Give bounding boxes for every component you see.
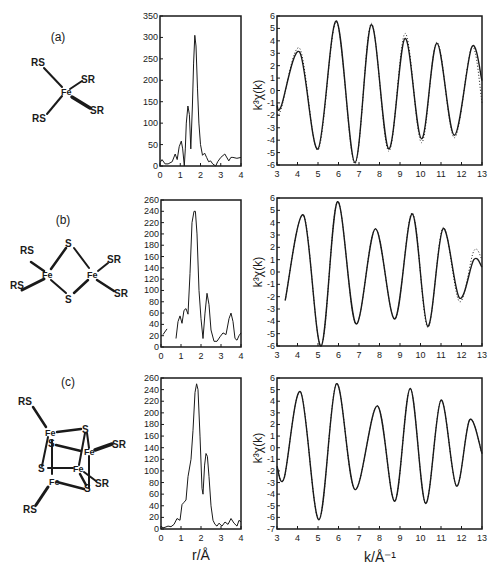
y-tick-label: 0 (270, 86, 275, 96)
y-tick-label: 5 (270, 385, 275, 395)
plot-frame (277, 16, 482, 165)
y-tick-label: -4 (267, 489, 275, 499)
x-tick-label: 0 (157, 170, 162, 180)
molecule-c-diagram (33, 407, 112, 505)
molecule-b-diagram (22, 248, 114, 293)
y-tick-label: 4 (270, 218, 275, 228)
y-tick-label: 0 (270, 267, 275, 277)
panel-label-a: (a) (51, 30, 66, 44)
y-tick-label: 0 (270, 443, 275, 453)
x-tick-label: 9 (397, 169, 402, 179)
y-tick-label: 3 (270, 230, 275, 240)
x-tick-label: 12 (456, 533, 466, 543)
exafs-plot-a: 345678910111213-6-5-4-3-2-10123456 (267, 11, 487, 179)
x-tick-label: 5 (315, 533, 320, 543)
y-tick-label: 250 (143, 54, 158, 64)
y-tick-label: 240 (144, 385, 159, 395)
rs-label: RS (20, 245, 34, 256)
y-tick-label: 3 (270, 408, 275, 418)
y-tick-label: 220 (144, 218, 159, 228)
x-tick-label: 13 (477, 350, 487, 360)
x-tick-label: 6 (336, 169, 341, 179)
svg-text:SR: SR (112, 439, 127, 450)
svg-text:RS: RS (23, 504, 37, 515)
data-curve (277, 21, 482, 163)
y-tick-label: -6 (267, 341, 275, 351)
panel-label-b: (b) (56, 213, 71, 227)
y-tick-label: 50 (148, 140, 158, 150)
y-tick-label: 120 (144, 274, 159, 284)
fit-curve (277, 384, 482, 520)
x-tick-label: 12 (456, 169, 466, 179)
exafs-ylabel-c: k³χ(k) (251, 433, 265, 463)
svg-text:RS: RS (10, 280, 24, 291)
svg-text:Fe: Fe (45, 428, 56, 438)
y-tick-label: 160 (144, 252, 159, 262)
y-tick-label: 1 (270, 431, 275, 441)
y-tick-label: 180 (144, 419, 159, 429)
y-tick-label: 5 (270, 23, 275, 33)
y-tick-label: 0 (154, 342, 159, 352)
y-tick-label: 220 (144, 396, 159, 406)
y-tick-label: -4 (267, 135, 275, 145)
y-tick-label: 180 (144, 240, 159, 250)
plot-frame (161, 200, 241, 347)
exafs-ylabel-b: k³χ(k) (251, 257, 265, 287)
molecule-a-atoms: RS SR Fe RS SR (31, 57, 105, 124)
y-tick-label: 140 (144, 443, 159, 453)
x-tick-label: 6 (336, 350, 341, 360)
x-tick-label: 3 (274, 169, 279, 179)
svg-text:Fe: Fe (42, 270, 53, 280)
y-tick-label: 160 (144, 431, 159, 441)
x-tick-label: 4 (295, 350, 300, 360)
ft-plot-b: 0123402040608010012014016018020022024026… (144, 195, 244, 361)
fit-curve (277, 22, 482, 164)
svg-text:Fe: Fe (61, 87, 72, 97)
molecule-b-atoms: S RS Fe Fe SR RS S SR (10, 238, 129, 305)
x-tick-label: 5 (315, 169, 320, 179)
x-tick-label: 4 (238, 170, 243, 180)
y-tick-label: -2 (267, 110, 275, 120)
y-tick-label: 60 (149, 489, 159, 499)
x-tick-label: 1 (178, 533, 183, 543)
data-curve (163, 329, 167, 335)
x-tick-label: 3 (274, 350, 279, 360)
x-tick-label: 13 (477, 533, 487, 543)
x-tick-label: 3 (218, 351, 223, 361)
y-tick-label: 100 (143, 118, 158, 128)
svg-text:RS: RS (18, 396, 32, 407)
x-tick-label: 4 (238, 533, 243, 543)
x-tick-label: 2 (198, 533, 203, 543)
y-tick-label: -6 (267, 512, 275, 522)
x-tick-label: 10 (415, 169, 425, 179)
x-tick-label: 8 (377, 533, 382, 543)
y-tick-label: -5 (267, 501, 275, 511)
x-tick-label: 11 (436, 350, 445, 360)
x-tick-label: 6 (336, 533, 341, 543)
y-tick-label: 3 (270, 48, 275, 58)
y-tick-label: -6 (267, 160, 275, 170)
x-tick-label: 7 (356, 169, 361, 179)
y-tick-label: 6 (270, 373, 275, 383)
y-tick-label: 100 (144, 466, 159, 476)
x-tick-label: 7 (356, 533, 361, 543)
y-tick-label: 1 (270, 73, 275, 83)
plot-frame (277, 198, 482, 346)
y-tick-label: 350 (143, 11, 158, 21)
svg-text:SR: SR (114, 288, 129, 299)
exafs-xlabel: k/Å⁻¹ (364, 549, 396, 565)
x-tick-label: 4 (295, 169, 300, 179)
y-tick-label: -1 (267, 98, 275, 108)
data-curve (176, 211, 241, 341)
x-tick-label: 3 (218, 533, 223, 543)
exafs-plot-c: 345678910111213-7-6-5-4-3-2-10123456 (267, 373, 487, 543)
x-tick-label: 12 (456, 350, 466, 360)
ft-plot-a: 01234050100150200250300350 (143, 11, 244, 180)
fit-curve (285, 202, 482, 346)
y-tick-label: 2 (270, 242, 275, 252)
y-tick-label: -5 (267, 148, 275, 158)
y-tick-label: 0 (154, 524, 159, 534)
svg-text:SR: SR (81, 74, 96, 85)
y-tick-label: 4 (270, 36, 275, 46)
svg-text:Fe: Fe (49, 477, 60, 487)
